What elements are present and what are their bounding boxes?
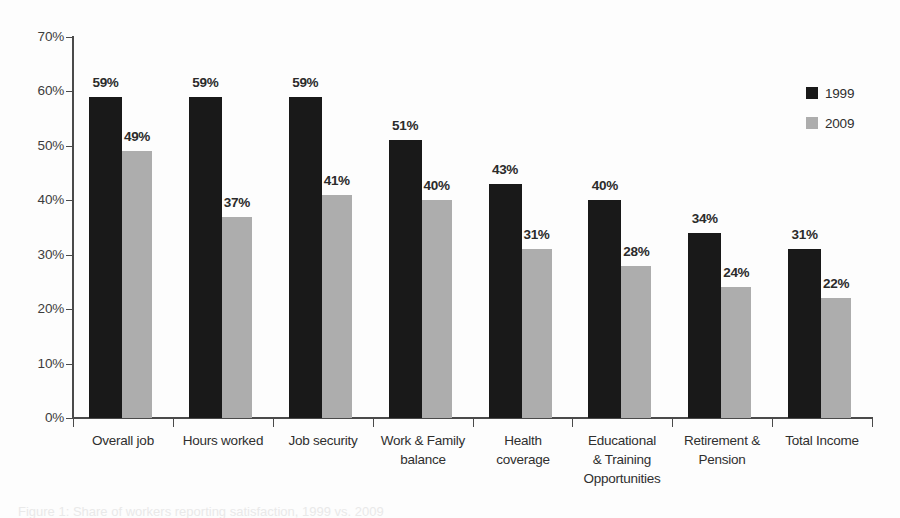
y-axis-tick bbox=[66, 364, 73, 365]
bar-2009-1 bbox=[222, 217, 252, 418]
bar-value-label-1999-2: 59% bbox=[280, 75, 330, 90]
bar-1999-6 bbox=[688, 233, 721, 418]
bar-2009-4 bbox=[522, 249, 552, 418]
y-axis-tick bbox=[66, 146, 73, 147]
bar-1999-0 bbox=[89, 97, 122, 418]
y-axis-tick-label-text: 50% bbox=[6, 138, 64, 153]
bar-1999-5 bbox=[588, 200, 621, 418]
y-axis-tick bbox=[66, 91, 73, 92]
bar-value-label-2009-5: 28% bbox=[611, 244, 661, 259]
bar-2009-0 bbox=[122, 151, 152, 418]
bar-value-label-2009-6: 24% bbox=[711, 265, 761, 280]
bar-value-label-2009-4: 31% bbox=[512, 227, 562, 242]
bar-value-label-1999-4: 43% bbox=[480, 162, 530, 177]
y-axis-tick-label: 10% bbox=[0, 356, 64, 372]
category-label-line: Pension bbox=[662, 450, 782, 469]
bar-1999-7 bbox=[788, 249, 821, 418]
bar-value-label-1999-6: 34% bbox=[680, 211, 730, 226]
category-label-line: Opportunities bbox=[562, 469, 682, 488]
bar-value-label-2009-3: 40% bbox=[412, 178, 462, 193]
bar-1999-1 bbox=[189, 97, 222, 418]
bar-value-label-2009-7: 22% bbox=[811, 276, 861, 291]
bar-1999-2 bbox=[289, 97, 322, 418]
x-axis-tick bbox=[572, 419, 573, 427]
x-axis-tick bbox=[173, 419, 174, 427]
bar-1999-4 bbox=[489, 184, 522, 418]
y-axis-tick bbox=[66, 37, 73, 38]
bar-2009-3 bbox=[422, 200, 452, 418]
x-axis-tick bbox=[273, 419, 274, 427]
y-axis-tick-label-text: 20% bbox=[6, 301, 64, 316]
legend-label-1999: 1999 bbox=[825, 86, 854, 101]
bar-value-label-2009-2: 41% bbox=[312, 173, 362, 188]
bar-value-label-1999-0: 59% bbox=[81, 75, 131, 90]
bar-2009-6 bbox=[721, 287, 751, 418]
cut-off-caption: Figure 1: Share of workers reporting sat… bbox=[0, 505, 900, 518]
y-axis-tick-label: 50% bbox=[0, 138, 64, 154]
plot-area bbox=[73, 37, 872, 418]
x-axis-category-label-7: Total Income bbox=[762, 431, 882, 450]
legend-swatch-1999 bbox=[806, 87, 818, 99]
y-axis-tick-label-text: 30% bbox=[6, 247, 64, 262]
bar-2009-5 bbox=[621, 266, 651, 418]
y-axis-tick-label-text: 0% bbox=[6, 410, 64, 425]
bar-value-label-1999-5: 40% bbox=[580, 178, 630, 193]
y-axis-tick bbox=[66, 255, 73, 256]
y-axis-tick-label: 20% bbox=[0, 301, 64, 317]
y-axis-tick bbox=[66, 200, 73, 201]
y-axis-tick bbox=[66, 309, 73, 310]
legend: 19992009 bbox=[806, 78, 854, 138]
bar-value-label-1999-7: 31% bbox=[780, 227, 830, 242]
y-axis-tick-label: 40% bbox=[0, 192, 64, 208]
bar-value-label-2009-0: 49% bbox=[112, 129, 162, 144]
x-axis-tick bbox=[672, 419, 673, 427]
x-axis-tick bbox=[473, 419, 474, 427]
x-axis-tick bbox=[872, 419, 873, 427]
y-axis-tick-label-text: 40% bbox=[6, 192, 64, 207]
bar-2009-2 bbox=[322, 195, 352, 418]
y-axis-tick-label-text: 60% bbox=[6, 83, 64, 98]
y-axis-tick-label: 60% bbox=[0, 83, 64, 99]
y-axis-tick-label-text: 70% bbox=[6, 29, 64, 44]
legend-label-2009: 2009 bbox=[825, 116, 854, 131]
y-axis-tick-label-text: 10% bbox=[6, 356, 64, 371]
bar-value-label-1999-3: 51% bbox=[380, 118, 430, 133]
legend-entry-2009: 2009 bbox=[806, 108, 854, 138]
x-axis-tick bbox=[373, 419, 374, 427]
bar-chart: 70%60%50%40%30%20%10%0% 59%59%59%51%43%4… bbox=[0, 0, 900, 518]
legend-swatch-2009 bbox=[806, 117, 818, 129]
bar-value-label-1999-1: 59% bbox=[180, 75, 230, 90]
x-axis-tick bbox=[772, 419, 773, 427]
legend-entry-1999: 1999 bbox=[806, 78, 854, 108]
y-axis-tick-label: 0% bbox=[0, 410, 64, 426]
bar-2009-7 bbox=[821, 298, 851, 418]
x-axis-tick bbox=[73, 419, 74, 427]
category-label-line: Total Income bbox=[762, 431, 882, 450]
bar-value-label-2009-1: 37% bbox=[212, 195, 262, 210]
y-axis-tick-label: 70% bbox=[0, 29, 64, 45]
y-axis-tick-label: 30% bbox=[0, 247, 64, 263]
y-axis-tick bbox=[66, 418, 73, 419]
cut-off-caption-text: Figure 1: Share of workers reporting sat… bbox=[18, 505, 900, 518]
